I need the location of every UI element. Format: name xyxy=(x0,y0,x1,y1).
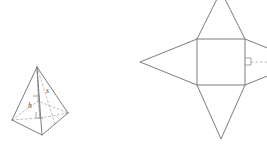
height-label: h xyxy=(28,101,32,110)
geometry-figure-canvas: s h xyxy=(0,0,267,145)
slant-height-label: s xyxy=(46,86,49,95)
figure-background xyxy=(0,0,267,145)
